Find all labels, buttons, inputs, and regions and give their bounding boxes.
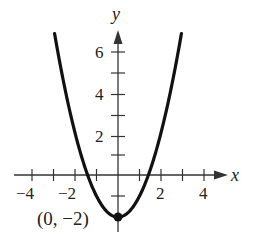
y-tick-label: 6 [95,43,104,62]
x-axis-arrow-icon [214,171,228,180]
chart: −4 −2 2 4 6 4 2 x y (0, −2) [0,0,255,236]
plot-area: −4 −2 2 4 6 4 2 x y (0, −2) [0,0,255,236]
x-tick-label: −2 [58,184,76,203]
x-tick-label: 2 [156,184,165,203]
x-axis-label: x [230,165,239,185]
x-tick-label: −4 [16,184,35,203]
x-tick-label: 4 [199,184,208,203]
vertex-point [114,213,123,222]
y-tick-label: 4 [95,85,104,104]
y-axis-arrow-icon [114,30,123,44]
y-tick-label: 2 [95,127,104,146]
y-axis-label: y [110,4,120,24]
vertex-label: (0, −2) [37,208,89,230]
